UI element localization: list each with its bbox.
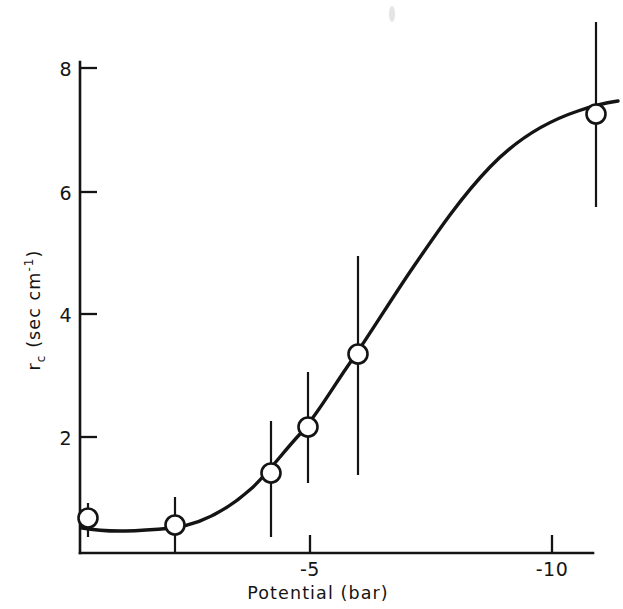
y-tick-label-4: 4 bbox=[59, 304, 72, 326]
y-axis-tick-labels: 8 6 4 2 bbox=[59, 58, 72, 449]
scan-artifact bbox=[389, 6, 395, 22]
data-point-4 bbox=[299, 418, 318, 437]
y-axis-title-exponent: -1 bbox=[22, 257, 36, 271]
chart-svg: 8 6 4 2 -5 -10 Potential (bar) rc (sec c… bbox=[0, 0, 623, 609]
y-axis-title-subscript: c bbox=[34, 355, 48, 363]
y-axis-title: rc (sec cm-1) bbox=[22, 249, 48, 370]
error-bars bbox=[88, 22, 596, 553]
fit-curve bbox=[82, 101, 618, 531]
y-axis-ticks bbox=[80, 68, 97, 437]
data-point-1 bbox=[79, 509, 98, 528]
x-axis-ticks bbox=[310, 535, 552, 553]
x-tick-label-minus5: -5 bbox=[300, 558, 320, 580]
data-markers bbox=[79, 105, 606, 535]
svg-text:rc (sec cm-1): rc (sec cm-1) bbox=[22, 249, 48, 370]
x-axis-tick-labels: -5 -10 bbox=[300, 558, 568, 580]
data-point-2 bbox=[166, 516, 185, 535]
x-tick-label-minus10: -10 bbox=[536, 558, 569, 580]
figure-container: 8 6 4 2 -5 -10 Potential (bar) rc (sec c… bbox=[0, 0, 623, 609]
y-axis-title-units-close: ) bbox=[24, 249, 44, 257]
axis-lines bbox=[80, 62, 593, 553]
x-axis-title: Potential (bar) bbox=[247, 583, 388, 603]
data-point-6 bbox=[587, 105, 606, 124]
y-axis-title-main: r bbox=[24, 362, 44, 370]
y-tick-label-2: 2 bbox=[59, 427, 72, 449]
y-tick-label-8: 8 bbox=[59, 58, 72, 80]
y-tick-label-6: 6 bbox=[59, 182, 72, 204]
data-point-5 bbox=[349, 345, 368, 364]
y-axis-title-units-open: (sec cm bbox=[24, 272, 44, 355]
data-point-3 bbox=[262, 464, 281, 483]
